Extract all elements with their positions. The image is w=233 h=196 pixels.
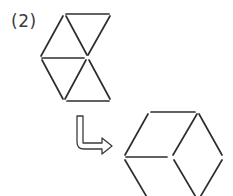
- triangle-edge: [65, 60, 86, 99]
- triangle-edge: [66, 16, 87, 55]
- triangle-edge: [42, 60, 63, 99]
- triangle-edge: [125, 114, 148, 155]
- original-figure: [41, 14, 110, 101]
- triangle-edge: [41, 16, 63, 56]
- triangle-edge: [174, 160, 197, 196]
- hook-arrow-icon: [77, 116, 112, 154]
- transformed-figure: [125, 112, 222, 196]
- triangle-edge: [173, 114, 197, 155]
- triangle-edge: [125, 160, 148, 196]
- triangle-edge: [199, 114, 222, 155]
- diagram-canvas: [0, 0, 233, 196]
- triangle-edge: [88, 16, 110, 55]
- triangle-edge: [89, 60, 110, 99]
- triangle-edge: [199, 160, 222, 196]
